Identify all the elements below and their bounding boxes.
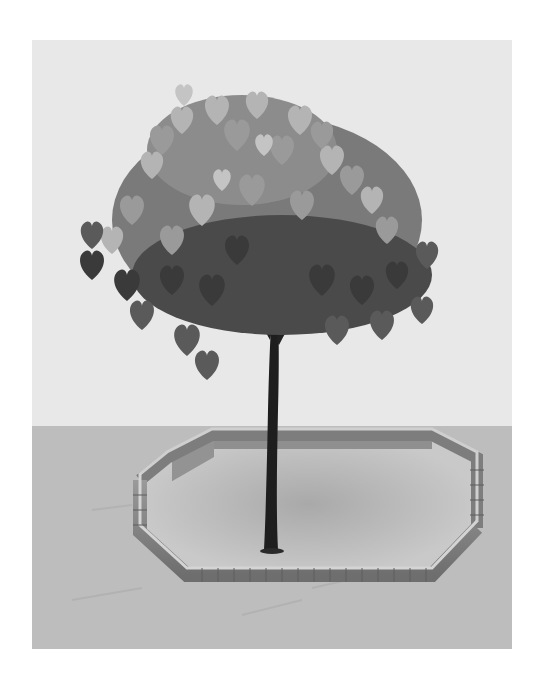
log-border	[133, 429, 484, 582]
tree-illustration	[32, 40, 512, 649]
